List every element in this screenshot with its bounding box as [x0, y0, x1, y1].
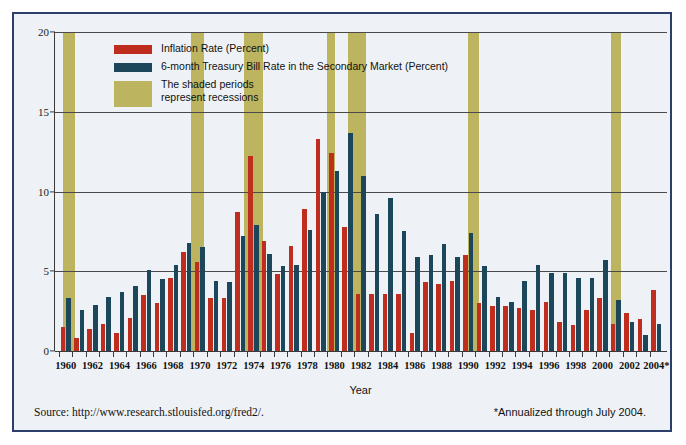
y-tick-mark	[50, 191, 55, 192]
bar-tbill	[227, 282, 232, 351]
bar-inflation	[195, 262, 200, 351]
x-tick-mark	[475, 351, 476, 357]
bar-inflation	[141, 295, 146, 351]
x-tick-mark	[140, 351, 141, 357]
x-tick-label: 1974	[243, 360, 264, 371]
x-tick-mark	[448, 351, 449, 357]
bar-tbill	[442, 244, 447, 351]
bar-inflation	[248, 156, 253, 351]
bar-tbill	[335, 171, 340, 351]
bar-tbill	[630, 322, 635, 351]
bar-inflation	[463, 255, 468, 351]
x-tick-label: 1986	[404, 360, 425, 371]
x-tick-mark	[381, 351, 382, 357]
bar-inflation	[235, 212, 240, 351]
x-tick-label: 2000	[592, 360, 613, 371]
bar-tbill	[281, 266, 286, 351]
chart-legend: Inflation Rate (Percent) 6-month Treasur…	[114, 42, 448, 112]
x-tick-mark	[636, 351, 637, 357]
x-axis-title: Year	[54, 384, 667, 396]
x-tick-mark	[166, 351, 167, 357]
bar-tbill	[267, 254, 272, 351]
legend-label-tbill: 6-month Treasury Bill Rate in the Second…	[161, 60, 448, 73]
x-tick-label: 1976	[270, 360, 291, 371]
bar-tbill	[415, 257, 420, 351]
bar-tbill	[321, 192, 326, 352]
y-tick-mark	[50, 271, 55, 272]
inflation-tbill-chart-figure: 0510152019601962196419661968197019721974…	[0, 0, 686, 445]
chart-frame: 0510152019601962196419661968197019721974…	[12, 12, 672, 432]
bar-tbill	[214, 281, 219, 351]
bar-tbill	[187, 243, 192, 351]
x-tick-mark	[193, 351, 194, 357]
bar-inflation	[383, 294, 388, 351]
bar-tbill	[80, 310, 85, 351]
bar-inflation	[517, 308, 522, 351]
bar-inflation	[557, 322, 562, 351]
x-tick-label: 2002	[619, 360, 640, 371]
bar-tbill	[496, 297, 501, 351]
bar-inflation	[168, 278, 173, 351]
x-tick-mark	[408, 351, 409, 357]
x-tick-mark	[556, 351, 557, 357]
legend-swatch-tbill	[114, 63, 152, 72]
legend-item-recession: The shaded periods represent recessions	[114, 78, 448, 107]
x-tick-label: 1996	[538, 360, 559, 371]
bar-inflation	[544, 302, 549, 351]
x-tick-label: 1998	[565, 360, 586, 371]
bar-tbill	[603, 260, 608, 351]
bar-inflation	[222, 298, 227, 351]
bar-inflation	[624, 313, 629, 351]
x-tick-label: 1990	[458, 360, 479, 371]
bar-inflation	[262, 241, 267, 351]
bar-tbill	[455, 257, 460, 351]
legend-item-tbill: 6-month Treasury Bill Rate in the Second…	[114, 60, 448, 73]
legend-item-inflation: Inflation Rate (Percent)	[114, 42, 448, 55]
bar-inflation	[275, 274, 280, 351]
bar-tbill	[66, 298, 71, 351]
bar-tbill	[241, 236, 246, 351]
bar-tbill	[388, 198, 393, 351]
bar-tbill	[106, 297, 111, 351]
bar-inflation	[369, 294, 374, 351]
bar-inflation	[503, 306, 508, 351]
x-tick-mark	[623, 351, 624, 357]
x-tick-mark	[126, 351, 127, 357]
x-tick-mark	[515, 351, 516, 357]
bar-tbill	[120, 292, 125, 351]
bar-inflation	[638, 319, 643, 351]
bar-inflation	[530, 310, 535, 351]
x-tick-mark	[153, 351, 154, 357]
x-tick-label: 1968	[163, 360, 184, 371]
bar-inflation	[423, 282, 428, 351]
y-tick-label: 20	[38, 26, 49, 38]
x-tick-label: 1962	[82, 360, 103, 371]
bar-inflation	[356, 294, 361, 351]
x-tick-mark	[354, 351, 355, 357]
legend-label-recession: The shaded periods represent recessions	[161, 78, 258, 104]
bar-inflation	[61, 327, 66, 351]
bar-tbill	[536, 265, 541, 351]
source-note: Source: http://www.research.stlouisfed.o…	[34, 406, 264, 418]
y-gridline	[55, 32, 667, 33]
x-tick-mark	[395, 351, 396, 357]
bar-tbill	[616, 300, 621, 351]
x-tick-mark	[207, 351, 208, 357]
x-tick-mark	[72, 351, 73, 357]
bar-tbill	[563, 273, 568, 351]
y-tick-label: 0	[44, 345, 50, 357]
bar-tbill	[375, 214, 380, 351]
bar-tbill	[402, 231, 407, 351]
x-tick-mark	[86, 351, 87, 357]
x-tick-mark	[435, 351, 436, 357]
bar-tbill	[509, 302, 514, 351]
bar-tbill	[657, 324, 662, 351]
x-tick-mark	[529, 351, 530, 357]
bar-inflation	[490, 306, 495, 351]
x-tick-label: 1988	[431, 360, 452, 371]
bar-inflation	[584, 310, 589, 351]
bar-inflation	[316, 139, 321, 351]
bar-tbill	[93, 305, 98, 351]
bar-tbill	[522, 281, 527, 351]
x-tick-label: 1978	[297, 360, 318, 371]
